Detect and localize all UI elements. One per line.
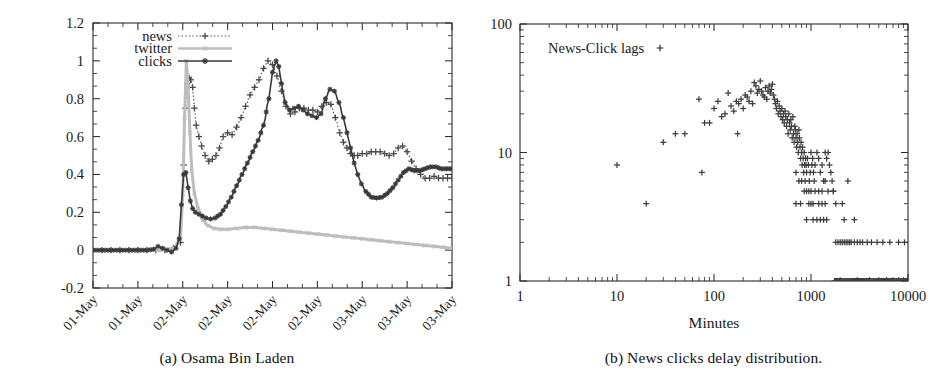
- svg-text:0.6: 0.6: [66, 129, 84, 145]
- annotation-plus-icon: [657, 45, 663, 51]
- svg-text:02-May: 02-May: [195, 292, 235, 334]
- svg-text:1: 1: [77, 53, 84, 69]
- figure-container: -0.200.20.40.60.811.201-May01-May02-May0…: [0, 0, 945, 385]
- svg-text:1: 1: [516, 288, 523, 304]
- legend-label-clicks: clicks: [138, 53, 172, 69]
- svg-text:01-May: 01-May: [105, 292, 145, 334]
- svg-text:02-May: 02-May: [284, 292, 324, 334]
- svg-text:02-May: 02-May: [150, 292, 190, 334]
- loglog-scatter-chart: 110100100010000110100MinutesNews-Click l…: [470, 0, 945, 340]
- x-axis-title: Minutes: [689, 314, 740, 331]
- series-news: [90, 58, 455, 254]
- timeseries-chart: -0.200.20.40.60.811.201-May01-May02-May0…: [0, 0, 470, 340]
- svg-text:03-May: 03-May: [329, 292, 369, 334]
- svg-text:10000: 10000: [890, 288, 926, 304]
- annotation-label: News-Click lags: [548, 40, 645, 56]
- scatter-points: [614, 78, 911, 284]
- svg-text:-0.2: -0.2: [61, 280, 84, 296]
- svg-text:100: 100: [703, 288, 725, 304]
- svg-text:0: 0: [77, 242, 84, 258]
- svg-text:0.2: 0.2: [66, 204, 84, 220]
- svg-text:1: 1: [505, 273, 512, 289]
- svg-text:10: 10: [498, 145, 513, 161]
- svg-text:100: 100: [490, 16, 512, 32]
- svg-text:0.8: 0.8: [66, 91, 84, 107]
- caption-panel-b: (b) News clicks delay distribution.: [476, 349, 945, 367]
- panel-news-click-delay: 110100100010000110100MinutesNews-Click l…: [470, 0, 945, 385]
- svg-text:0.4: 0.4: [66, 166, 85, 182]
- series-clicks: [91, 58, 455, 254]
- panel-osama-bin-laden: -0.200.20.40.60.811.201-May01-May02-May0…: [0, 0, 470, 385]
- series-twitter: [91, 59, 454, 252]
- svg-text:03-May: 03-May: [374, 292, 414, 334]
- svg-text:10: 10: [610, 288, 625, 304]
- svg-text:1000: 1000: [797, 288, 826, 304]
- caption-panel-a: (a) Osama Bin Laden: [0, 349, 462, 367]
- svg-text:01-May: 01-May: [60, 292, 100, 334]
- svg-text:02-May: 02-May: [240, 292, 280, 334]
- svg-text:1.2: 1.2: [66, 15, 84, 31]
- legend-sample-news: [178, 33, 232, 39]
- svg-text:03-May: 03-May: [419, 292, 459, 334]
- legend-sample-twitter: [178, 46, 232, 50]
